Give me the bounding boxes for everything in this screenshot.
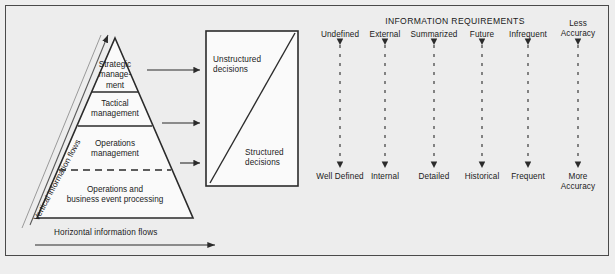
requirement-top-infrequent: Infrequent <box>509 30 547 40</box>
requirement-top-less-accuracy: Less Accuracy <box>561 19 595 39</box>
requirement-bottom-more-accuracy: More Accuracy <box>561 172 595 192</box>
requirement-bottom-historical: Historical <box>465 172 500 182</box>
requirement-top-future: Future <box>470 30 494 40</box>
pyramid-level-operations-business-event-line1: Operations and <box>35 185 195 195</box>
pyramid-level-strategic-line3: ment <box>80 81 150 91</box>
pyramid-level-tactical: Tactical management <box>70 99 160 120</box>
decision-box-unstructured-line2: decisions <box>213 65 261 75</box>
figure-canvas: Strategic manage- ment Tactical manageme… <box>0 0 615 274</box>
information-requirements-title: INFORMATION REQUIREMENTS <box>385 16 525 26</box>
requirement-bottom-more-accuracy-line1: More <box>561 172 595 182</box>
decision-box-structured-line1: Structured <box>245 148 284 158</box>
requirement-top-summarized: Summarized <box>411 30 458 40</box>
decision-box-structured-label: Structured decisions <box>245 148 284 168</box>
requirement-bottom-more-accuracy-line2: Accuracy <box>561 182 595 192</box>
requirement-top-less-accuracy-line1: Less <box>561 19 595 29</box>
decision-box-unstructured-line1: Unstructured <box>213 55 261 65</box>
requirement-top-external: External <box>370 30 401 40</box>
requirement-top-undefined: Undefined <box>321 30 359 40</box>
pyramid-level-strategic: Strategic manage- ment <box>80 60 150 91</box>
pyramid-level-tactical-line2: management <box>70 109 160 119</box>
pyramid-level-strategic-line1: Strategic <box>80 60 150 70</box>
pyramid-level-operations-business-event-line2: business event processing <box>35 195 195 205</box>
horizontal-information-flows-label: Horizontal information flows <box>54 228 157 238</box>
decision-box-structured-line2: decisions <box>245 158 284 168</box>
decision-box-unstructured-label: Unstructured decisions <box>213 55 261 75</box>
requirement-top-less-accuracy-line2: Accuracy <box>561 29 595 39</box>
pyramid-level-strategic-line2: manage- <box>80 70 150 80</box>
figure-frame <box>5 5 609 256</box>
requirement-bottom-frequent: Frequent <box>511 172 545 182</box>
pyramid-level-operations-management-line2: management <box>67 149 163 159</box>
requirement-bottom-detailed: Detailed <box>419 172 450 182</box>
requirement-bottom-internal: Internal <box>371 172 399 182</box>
requirement-bottom-well-defined: Well Defined <box>316 172 363 182</box>
pyramid-level-operations-business-event: Operations and business event processing <box>35 185 195 206</box>
pyramid-level-tactical-line1: Tactical <box>70 99 160 109</box>
